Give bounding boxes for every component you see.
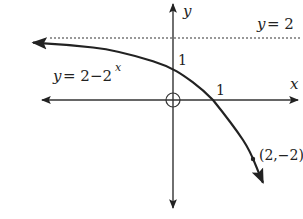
function-curve	[33, 43, 263, 183]
x-axis-label: x	[290, 75, 299, 93]
graph-canvas: y x y = 2 y = 2−2 x 1 1 (2,−2)	[0, 0, 303, 219]
asymptote-label-y: y	[256, 15, 266, 33]
asymptote-label-eq: = 2	[267, 15, 294, 33]
point-label: (2,−2)	[259, 147, 303, 163]
x-intercept-label: 1	[216, 82, 225, 98]
point-2-neg2	[251, 157, 255, 161]
y-axis-label: y	[182, 2, 192, 20]
function-label-exp: x	[115, 61, 122, 74]
function-label-eq: = 2−2	[63, 67, 112, 85]
function-label-y: y	[52, 67, 62, 85]
y-intercept-label: 1	[178, 52, 187, 68]
